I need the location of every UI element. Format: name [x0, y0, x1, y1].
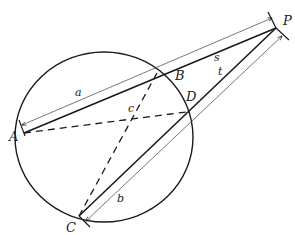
- label-point-P: P: [282, 13, 292, 28]
- label-point-B: B: [174, 68, 185, 83]
- label-point-A: A: [8, 129, 18, 144]
- label-segment-c: c: [128, 102, 134, 115]
- label-point-C: C: [66, 220, 76, 235]
- label-segment-t: t: [218, 65, 223, 78]
- dimension-line-a: [22, 18, 272, 125]
- label-segment-a: a: [75, 86, 82, 99]
- label-segment-b: b: [117, 192, 124, 205]
- circle: [15, 52, 193, 222]
- label-segment-s: s: [214, 51, 220, 64]
- dimension-line-b: [86, 36, 282, 221]
- tick-b-end: [276, 28, 289, 40]
- tick-b-start: [79, 216, 90, 227]
- label-point-D: D: [185, 89, 197, 104]
- secant-diagram: A B C D P a b c s t: [0, 0, 295, 235]
- tick-a-end: [268, 12, 276, 28]
